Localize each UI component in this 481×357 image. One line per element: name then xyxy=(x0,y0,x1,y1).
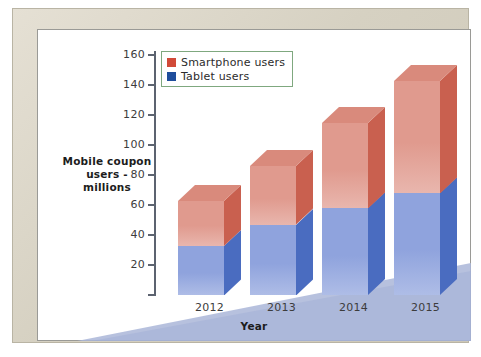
x-tick-label-2014: 2014 xyxy=(324,301,384,314)
chart-screenshot: 20406080100120140160 Mobile coupon users… xyxy=(0,0,481,357)
y-tick xyxy=(148,114,156,116)
bar-top-face-2014 xyxy=(322,107,385,123)
y-tick xyxy=(148,144,156,146)
y-tick-label: 140 xyxy=(105,78,145,91)
y-axis-title: Mobile coupon users - millions xyxy=(61,155,153,194)
bar-segment-smartphone-2015 xyxy=(394,81,440,194)
bar-segment-tablet-2014 xyxy=(322,208,368,295)
bar-segment-tablet-2015 xyxy=(394,193,440,295)
y-tick xyxy=(148,234,156,236)
bar-top-face-2013 xyxy=(250,150,313,166)
x-tick-label-2013: 2013 xyxy=(252,301,312,314)
bar-column-2015 xyxy=(394,65,440,296)
bar-column-2012 xyxy=(178,185,224,296)
photo-frame: 20406080100120140160 Mobile coupon users… xyxy=(13,9,468,342)
legend-label: Smartphone users xyxy=(181,56,285,69)
y-tick-label: 160 xyxy=(105,48,145,61)
y-tick xyxy=(148,264,156,266)
y-axis-title-line1: Mobile coupon xyxy=(61,155,153,168)
y-tick-label: 40 xyxy=(105,228,145,241)
y-tick-label: 120 xyxy=(105,108,145,121)
bar-segment-tablet-2013 xyxy=(250,225,296,296)
x-axis-tick-labels: 2012201320142015 xyxy=(37,301,471,317)
bar-segment-tablet-2012 xyxy=(178,246,224,296)
x-tick-label-2015: 2015 xyxy=(396,301,456,314)
bar-face-front xyxy=(250,166,296,225)
bar-top-face-2012 xyxy=(178,185,241,201)
chart-canvas: 20406080100120140160 Mobile coupon users… xyxy=(37,29,471,341)
bar-face-front xyxy=(178,246,224,296)
y-tick xyxy=(148,204,156,206)
bar-face-front xyxy=(178,201,224,246)
x-tick-label-2012: 2012 xyxy=(180,301,240,314)
bar-face-front xyxy=(394,81,440,194)
bar-column-2013 xyxy=(250,150,296,295)
bar-face-front xyxy=(250,225,296,296)
bar-face-front xyxy=(322,208,368,295)
y-tick-label: 20 xyxy=(105,258,145,271)
plot-area: 20406080100120140160 Mobile coupon users… xyxy=(37,29,471,341)
y-tick-label: 60 xyxy=(105,198,145,211)
y-tick xyxy=(148,294,156,296)
y-tick xyxy=(148,54,156,56)
bar-column-2014 xyxy=(322,107,368,296)
y-axis-line xyxy=(154,51,156,295)
bar-segment-smartphone-2014 xyxy=(322,123,368,209)
bar-face-front xyxy=(394,193,440,295)
legend-swatch-icon xyxy=(167,58,176,67)
legend-label: Tablet users xyxy=(181,70,249,83)
bar-segment-smartphone-2012 xyxy=(178,201,224,246)
bar-top-face-2015 xyxy=(394,65,457,81)
bar-face-front xyxy=(322,123,368,209)
legend-item: Smartphone users xyxy=(167,55,285,69)
chart-legend: Smartphone usersTablet users xyxy=(161,51,293,87)
y-axis-title-line2: users - millions xyxy=(61,168,153,194)
legend-swatch-icon xyxy=(167,72,176,81)
y-tick xyxy=(148,84,156,86)
legend-item: Tablet users xyxy=(167,69,285,83)
bar-segment-smartphone-2013 xyxy=(250,166,296,225)
y-tick-label: 100 xyxy=(105,138,145,151)
x-axis-title: Year xyxy=(37,320,471,332)
